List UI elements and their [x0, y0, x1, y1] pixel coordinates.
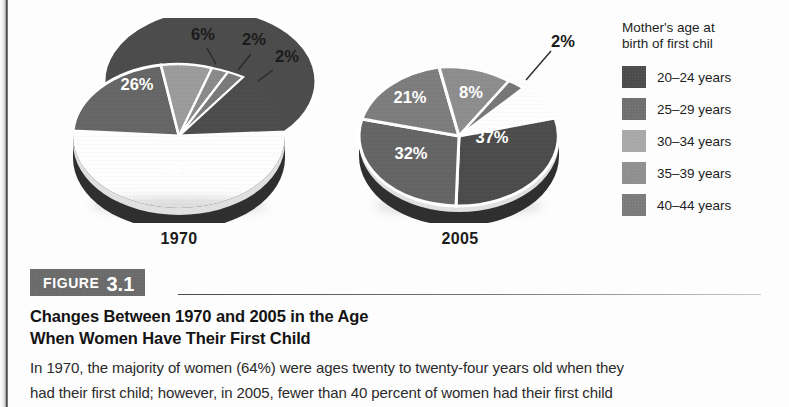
- legend-swatch-30-34: [622, 130, 646, 152]
- legend-item-20-24[interactable]: 20–24 years: [622, 61, 789, 93]
- pie-2005-label-32: 32%: [394, 144, 427, 162]
- legend-item-40-44[interactable]: 40–44 years: [622, 189, 789, 221]
- figure-body-text: In 1970, the majority of women (64%) wer…: [30, 355, 765, 405]
- figure-title: Changes Between 1970 and 2005 in the Age…: [30, 305, 650, 349]
- legend-swatch-40-44: [622, 194, 646, 216]
- legend-swatch-20-24: [622, 66, 646, 88]
- legend-swatch-25-29: [622, 98, 646, 120]
- pie-1970-label-26: 26%: [120, 75, 153, 93]
- figure-badge-number: 3.1: [107, 274, 135, 294]
- figure-chart-area: 64% 26% 6% 2% 2% 1970: [0, 0, 789, 258]
- legend-title-line-2: birth of first chil: [622, 36, 789, 52]
- pie-1970-year-label: 1970: [55, 230, 303, 248]
- pie-2005-label-8: 8%: [459, 83, 483, 101]
- figure-badge-wrapper: FIGURE 3.1: [30, 269, 145, 296]
- legend-item-30-34[interactable]: 30–34 years: [622, 125, 789, 157]
- figure-badge-word: FIGURE: [43, 275, 100, 291]
- pie-chart-1970: 64% 26% 6% 2% 2% 1970: [55, 18, 325, 223]
- legend-label-40-44: 40–44 years: [657, 198, 731, 213]
- legend-item-35-39[interactable]: 35–39 years: [622, 157, 789, 189]
- pie-2005-label-37: 37%: [475, 128, 508, 146]
- pie-1970-label-6: 6%: [191, 25, 215, 43]
- pie-1970-texture: [73, 64, 285, 208]
- pie-1970-label-64: 64%: [162, 158, 195, 176]
- pie-2005-label-21: 21%: [393, 88, 426, 106]
- legend-label-30-34: 30–34 years: [657, 134, 731, 149]
- figure-body-line-2: had their first child; however, in 2005,…: [30, 380, 765, 405]
- pie-1970-svg: 64% 26% 6% 2% 2%: [55, 18, 325, 223]
- pie-1970-label-2b: 2%: [275, 47, 299, 65]
- figure-title-line-1: Changes Between 1970 and 2005 in the Age: [30, 305, 650, 327]
- pie-2005-leader-2: [526, 51, 551, 80]
- legend-title: Mother's age at birth of first chil: [622, 20, 789, 52]
- figure-caption-area: FIGURE 3.1 Changes Between 1970 and 2005…: [0, 258, 789, 407]
- pie-1970-label-2a: 2%: [242, 30, 266, 48]
- figure-title-line-2: When Women Have Their First Child: [30, 327, 650, 349]
- pie-2005-svg: 37% 32% 21% 8% 2%: [355, 18, 605, 223]
- legend-label-25-29: 25–29 years: [657, 102, 731, 117]
- figure-badge: FIGURE 3.1: [30, 269, 145, 296]
- figure-divider-rule: [178, 294, 761, 295]
- figure-body-line-1: In 1970, the majority of women (64%) wer…: [30, 355, 765, 380]
- legend-swatch-35-39: [622, 162, 646, 184]
- legend-title-line-1: Mother's age at: [622, 20, 789, 36]
- chart-legend: Mother's age at birth of first chil 20–2…: [622, 20, 789, 221]
- legend-label-20-24: 20–24 years: [657, 70, 731, 85]
- pie-chart-2005: 37% 32% 21% 8% 2% 2005: [355, 18, 605, 223]
- legend-item-25-29[interactable]: 25–29 years: [622, 93, 789, 125]
- legend-label-35-39: 35–39 years: [657, 166, 731, 181]
- pie-2005-label-2: 2%: [551, 32, 575, 50]
- pie-2005-year-label: 2005: [355, 230, 565, 248]
